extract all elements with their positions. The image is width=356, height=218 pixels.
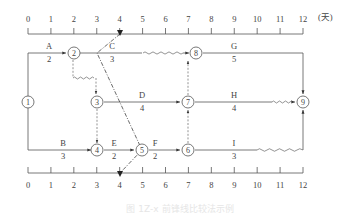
activity-D-duration: 4: [140, 103, 145, 113]
node-8: 8: [190, 47, 202, 59]
bottom-axis-tick-label: 9: [232, 180, 236, 190]
bottom-axis-tick-label: 3: [95, 180, 99, 190]
figure-caption: 图 1Z-x 前锋线比较法示例: [126, 203, 233, 214]
top-axis-tick-label: 6: [163, 14, 167, 24]
node-3: 3: [91, 96, 103, 108]
activity-A-name: A: [46, 41, 53, 51]
time-unit-label: (天): [318, 12, 333, 22]
bottom-axis-tick-label: 2: [72, 180, 76, 190]
svg-text:4: 4: [95, 146, 99, 155]
top-axis-tick-label: 10: [253, 14, 262, 24]
svg-text:9: 9: [301, 98, 305, 107]
node-2: 2: [68, 47, 80, 59]
activity-E-duration: 2: [112, 151, 116, 161]
svg-text:1: 1: [26, 98, 30, 107]
activity-E-name: E: [111, 138, 116, 148]
node-6: 6: [182, 144, 194, 156]
bottom-axis-tick-label: 12: [299, 180, 308, 190]
bottom-axis-tick-label: 5: [140, 180, 144, 190]
bottom-axis-tick-label: 7: [186, 180, 190, 190]
bottom-axis-tick-label: 6: [163, 180, 167, 190]
top-axis-tick-label: 8: [209, 14, 213, 24]
top-axis-tick-label: 4: [118, 14, 123, 24]
bottom-axis-tick-label: 0: [26, 180, 30, 190]
activity-H-duration: 4: [232, 103, 237, 113]
svg-text:6: 6: [186, 146, 190, 155]
activity-D-name: D: [139, 90, 145, 100]
top-axis-tick-label: 1: [49, 14, 53, 24]
top-axis-tick-label: 5: [140, 14, 144, 24]
svg-text:3: 3: [95, 98, 99, 107]
svg-text:2: 2: [72, 49, 76, 58]
node-9: 9: [297, 96, 309, 108]
node-4: 4: [91, 144, 103, 156]
activity-F-name: F: [153, 138, 158, 148]
svg-text:8: 8: [194, 49, 198, 58]
top-axis-tick-label: 11: [276, 14, 284, 24]
check-marker-top-icon: [117, 30, 123, 36]
activity-F-duration: 2: [153, 151, 157, 161]
dummy-activities: [73, 60, 188, 143]
time-scaled-network-diagram: 0123456789101112 (天) 0123456789101112: [0, 0, 356, 218]
bottom-time-axis: 0123456789101112: [26, 167, 307, 190]
activity-H-name: H: [231, 90, 237, 100]
progress-check-line: [97, 30, 142, 177]
activity-B-duration: 3: [61, 151, 65, 161]
top-time-axis: 0123456789101112 (天): [26, 12, 333, 34]
node-1: 1: [22, 96, 34, 108]
activity-C-duration: 3: [110, 54, 114, 64]
top-axis-tick-label: 0: [26, 14, 30, 24]
node-5: 5: [136, 144, 148, 156]
top-axis-tick-label: 7: [186, 14, 190, 24]
bottom-axis-tick-label: 10: [253, 180, 262, 190]
activity-lines: [28, 52, 303, 151]
svg-text:5: 5: [140, 146, 144, 155]
check-marker-bottom-icon: [117, 171, 123, 177]
activity-G-duration: 5: [232, 54, 236, 64]
activity-G-name: G: [231, 41, 237, 51]
top-axis-tick-label: 9: [232, 14, 236, 24]
activity-A-duration: 2: [47, 54, 51, 64]
bottom-axis-tick-label: 8: [209, 180, 213, 190]
top-axis-tick-label: 2: [72, 14, 76, 24]
activity-C-name: C: [109, 41, 115, 51]
activity-I-name: I: [233, 138, 236, 148]
svg-text:7: 7: [186, 98, 190, 107]
top-axis-tick-label: 12: [299, 14, 308, 24]
node-7: 7: [182, 96, 194, 108]
bottom-axis-tick-label: 4: [118, 180, 123, 190]
bottom-axis-tick-label: 1: [49, 180, 53, 190]
top-axis-tick-label: 3: [95, 14, 99, 24]
activity-B-name: B: [60, 138, 66, 148]
activity-I-duration: 3: [232, 151, 236, 161]
bottom-axis-tick-label: 11: [276, 180, 284, 190]
